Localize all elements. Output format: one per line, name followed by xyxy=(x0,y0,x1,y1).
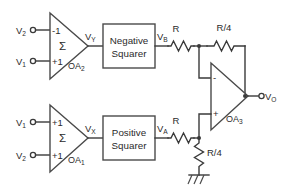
resistor-r4-ground-label: R/4 xyxy=(207,147,222,158)
label-vo: VO xyxy=(265,91,276,103)
top-amp-name: OA2 xyxy=(68,61,85,72)
ground-hatch-3 xyxy=(200,175,204,184)
positive-squarer-box[interactable] xyxy=(103,116,155,160)
top-summing-amplifier-group: V2 V1 -1 +1 Σ OA2 VY xyxy=(16,13,103,79)
input-terminal-v1-top[interactable] xyxy=(30,58,35,63)
input-terminal-v2-top[interactable] xyxy=(30,27,35,32)
output-node-group: VO xyxy=(243,91,276,103)
positive-squarer-label-line1: Positive xyxy=(112,127,147,138)
output-terminal-vo[interactable] xyxy=(259,93,264,98)
resistor-r4-feedback-symbol xyxy=(207,41,245,51)
label-vb: VB xyxy=(157,31,168,43)
bottom-amp-name: OA1 xyxy=(68,155,85,166)
opamp-inverting-sign: - xyxy=(213,72,216,83)
ground-hatch-2 xyxy=(194,175,198,184)
resistor-r4-feedback-label: R/4 xyxy=(217,22,232,33)
resistor-r-top-symbol xyxy=(168,41,194,51)
label-vy: VY xyxy=(85,31,96,43)
opamp-noninverting-sign: + xyxy=(213,108,219,119)
positive-squarer-group: Positive Squarer VA xyxy=(103,116,168,160)
wire-node-to-opamp-minus xyxy=(199,46,211,78)
resistor-r-top-group: R xyxy=(168,23,194,51)
bottom-amp-sign-bottom: +1 xyxy=(52,150,63,161)
opamp-oa3-name: OA3 xyxy=(226,114,243,125)
bottom-amp-sign-top: +1 xyxy=(52,117,63,128)
output-opamp-group: - + OA3 xyxy=(211,63,248,130)
label-v1-bottom: V1 xyxy=(16,117,26,129)
negative-squarer-label-line2: Squarer xyxy=(112,48,148,59)
resistor-r-top-label: R xyxy=(173,23,180,34)
node-output xyxy=(243,94,247,98)
label-va: VA xyxy=(157,123,168,135)
top-amp-sign-inverting: -1 xyxy=(52,25,60,36)
bottom-amp-sigma-symbol: Σ xyxy=(59,132,66,144)
input-terminal-v2-bottom[interactable] xyxy=(30,152,35,157)
positive-squarer-label-line2: Squarer xyxy=(112,140,148,151)
resistor-r-bottom-label: R xyxy=(173,115,180,126)
label-v1-top: V1 xyxy=(16,56,26,68)
resistor-r-bottom-group: R xyxy=(168,115,194,143)
circuit-diagram: V2 V1 -1 +1 Σ OA2 VY Negative Squarer VB… xyxy=(0,0,284,196)
top-amp-sign-noninverting: +1 xyxy=(52,56,63,67)
top-amp-sigma-symbol: Σ xyxy=(59,40,66,52)
resistor-r-bottom-symbol xyxy=(168,133,194,143)
wire-node-to-opamp-plus xyxy=(199,114,211,138)
bottom-summing-amplifier-group: V1 V2 +1 +1 Σ OA1 VX xyxy=(16,105,103,172)
negative-squarer-box[interactable] xyxy=(103,24,155,68)
circuit-canvas: V2 V1 -1 +1 Σ OA2 VY Negative Squarer VB… xyxy=(0,0,284,196)
label-v2-bottom: V2 xyxy=(16,150,26,162)
label-v2-top: V2 xyxy=(16,25,26,37)
negative-squarer-label-line1: Negative xyxy=(110,35,149,46)
label-vx: VX xyxy=(85,123,96,135)
ground-hatch-1 xyxy=(188,175,192,184)
input-terminal-v1-bottom[interactable] xyxy=(30,119,35,124)
resistor-r4-ground-symbol xyxy=(195,138,204,175)
negative-squarer-group: Negative Squarer VB xyxy=(103,24,168,68)
ground-symbol xyxy=(188,175,209,184)
